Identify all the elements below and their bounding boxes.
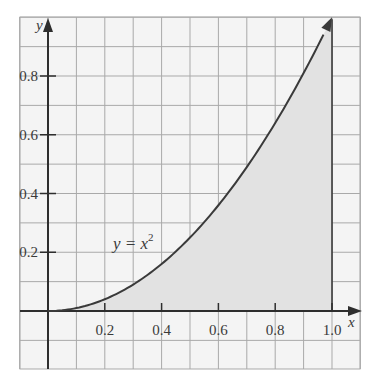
x-tick-label: 0.4 <box>152 322 171 338</box>
curve-label: y = x2 <box>111 231 154 253</box>
area-under-curve-chart: 0.20.40.60.81.00.20.40.60.8 y = x2 x y <box>0 0 367 384</box>
x-axis-label: x <box>347 314 355 330</box>
x-tick-label: 0.2 <box>95 322 114 338</box>
y-axis-label: y <box>34 17 43 33</box>
x-tick-label: 0.8 <box>266 322 285 338</box>
x-tick-label: 1.0 <box>323 322 342 338</box>
y-tick-label: 0.8 <box>19 68 38 84</box>
y-tick-label: 0.2 <box>19 244 38 260</box>
x-tick-label: 0.6 <box>209 322 228 338</box>
y-tick-label: 0.6 <box>19 127 38 143</box>
y-tick-label: 0.4 <box>19 186 38 202</box>
